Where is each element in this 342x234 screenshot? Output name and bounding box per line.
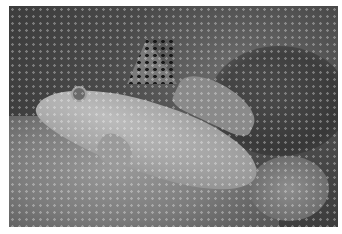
speckle-texture xyxy=(9,6,338,227)
fish-photograph xyxy=(9,6,338,227)
